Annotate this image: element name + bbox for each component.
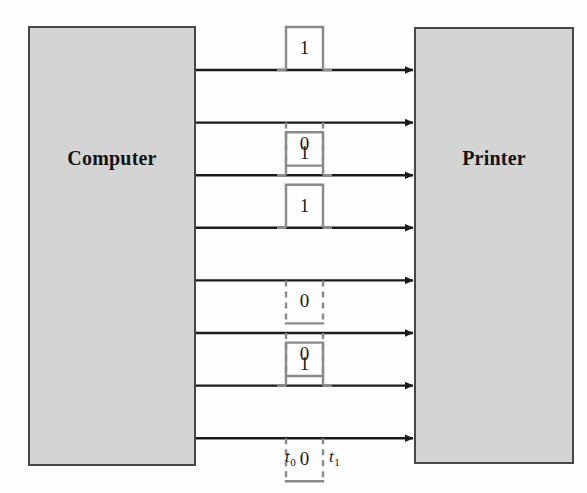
pulse-group [277, 27, 332, 481]
wire-group [196, 70, 413, 438]
bit-value-label: 1 [285, 142, 325, 164]
time-label-t1: t1 [329, 447, 339, 467]
bit-value-label: 1 [285, 195, 325, 217]
bit-value-label: 0 [285, 290, 325, 312]
bit-value-label: 1 [285, 353, 325, 375]
bit-value-label: 1 [285, 37, 325, 59]
signal-layer [0, 0, 587, 493]
time-label-t0: t0 [285, 447, 295, 467]
diagram-canvas: Computer Printer 10110010 t0 t1 [0, 0, 587, 493]
